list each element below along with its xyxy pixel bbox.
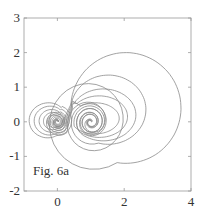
y-tick-label: -2 — [9, 183, 20, 198]
y-tick-label: 1 — [14, 79, 21, 94]
figure: 024-2-10123 Fig. 6a — [0, 0, 204, 216]
x-tick-label: 0 — [54, 194, 61, 209]
curve-1 — [29, 53, 181, 170]
figure-annotation: Fig. 6a — [33, 163, 69, 178]
y-tick-label: 2 — [14, 45, 21, 60]
y-tick-label: -1 — [9, 148, 20, 163]
x-tick-label: 4 — [188, 194, 195, 209]
y-tick-label: 3 — [14, 10, 21, 25]
y-tick-label: 0 — [14, 114, 21, 129]
x-tick-label: 2 — [121, 194, 128, 209]
plot-curves — [29, 53, 181, 170]
